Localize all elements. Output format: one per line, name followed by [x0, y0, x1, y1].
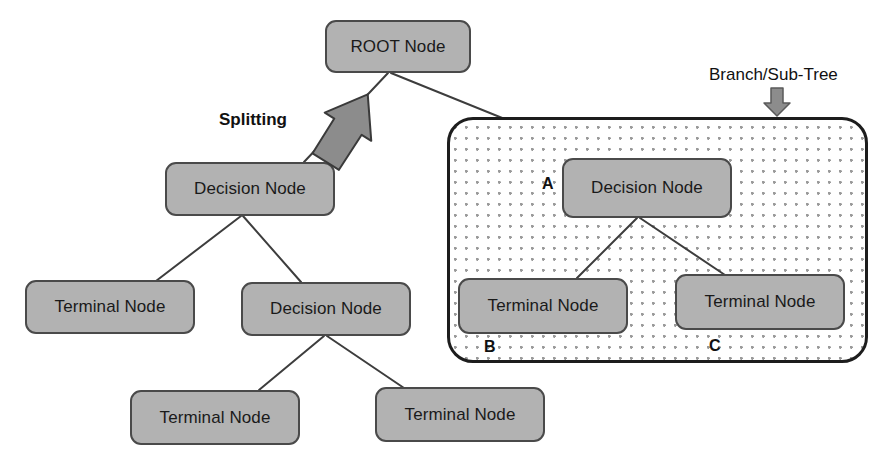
branch-arrow-icon: [764, 88, 790, 116]
marker-label-a: A: [542, 175, 554, 193]
branch-subtree-label: Branch/Sub-Tree: [709, 65, 838, 85]
marker-label-c: C: [709, 337, 721, 355]
splitting-label: Splitting: [219, 110, 287, 130]
splitting-arrow-icon: [302, 94, 382, 174]
marker-label-b: B: [484, 338, 496, 356]
decision-tree-diagram: ROOT Node Decision Node Terminal Node De…: [0, 0, 882, 466]
